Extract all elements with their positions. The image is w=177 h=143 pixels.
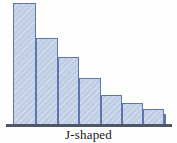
histogram-bar [36, 38, 58, 125]
figure-caption: J-shaped [0, 127, 177, 143]
histogram-bar [13, 3, 36, 125]
histogram-bar [79, 78, 101, 125]
histogram-bar [143, 109, 164, 125]
histogram-bar [58, 57, 79, 125]
j-shaped-distribution-figure: J-shaped [0, 0, 177, 143]
histogram-plot-area [0, 0, 177, 127]
histogram-bar [122, 103, 143, 125]
histogram-bar [101, 95, 122, 125]
